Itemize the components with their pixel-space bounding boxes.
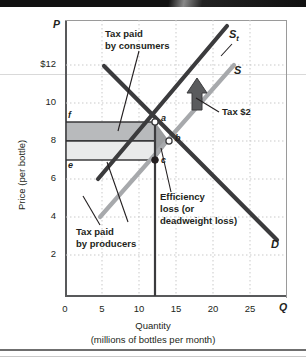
x-tick-25: 25 — [236, 303, 264, 314]
annotation-efficiency-loss-line1: Efficiency — [160, 191, 237, 203]
plot-frame-right — [286, 20, 287, 298]
y-axis-title: Price (per bottle) — [16, 140, 27, 210]
x-axis-title: Quantity — [0, 320, 306, 331]
curve-label-st-subscript: t — [236, 34, 239, 43]
point-label-c: c — [161, 155, 166, 165]
y-tick-4: 4 — [22, 210, 56, 221]
point-label-b: b — [175, 133, 181, 143]
annotation-efficiency-loss-line2: loss (or — [160, 203, 237, 215]
axis-marker-f: f — [68, 110, 71, 120]
axis-marker-e: e — [68, 160, 73, 170]
y-tick-12: $12 — [22, 58, 56, 69]
annotation-efficiency-loss-line3: deadweight loss) — [160, 215, 237, 227]
x-axis-subtitle: (millions of bottles per month) — [0, 334, 306, 345]
curve-label-demand: D — [271, 238, 279, 250]
page-bottom-rule-secondary — [0, 356, 306, 357]
x-tick-10: 10 — [125, 303, 153, 314]
annotation-tax-paid-by-consumers: Tax paid by consumers — [105, 28, 169, 52]
plot-area — [65, 20, 287, 297]
annotation-tax-producers-line2: by producers — [76, 238, 136, 250]
chart-figure: $12 10 8 6 4 2 0 5 10 15 20 25 P Q Price… — [0, 0, 306, 361]
x-tick-20: 20 — [199, 303, 227, 314]
annotation-tax-consumers-line2: by consumers — [105, 40, 169, 52]
plot-frame-top — [65, 20, 287, 21]
annotation-tax-consumers-line1: Tax paid — [105, 28, 169, 40]
point-label-a: a — [161, 113, 166, 123]
y-tick-6: 6 — [22, 172, 56, 183]
annotation-tax-amount: Tax $2 — [222, 106, 251, 118]
curve-label-supply-original: S — [234, 64, 241, 76]
page-top-edge-highlight — [0, 0, 306, 7]
x-tick-5: 5 — [88, 303, 116, 314]
annotation-tax-paid-by-producers: Tax paid by producers — [76, 226, 136, 250]
y-tick-2: 2 — [22, 248, 56, 259]
y-tick-8: 8 — [22, 134, 56, 145]
x-tick-15: 15 — [162, 303, 190, 314]
curve-label-supply-taxed: St — [229, 28, 239, 43]
y-axis-symbol: P — [53, 18, 60, 30]
y-tick-10: 10 — [22, 96, 56, 107]
annotation-efficiency-loss: Efficiency loss (or deadweight loss) — [160, 191, 237, 227]
annotation-tax-producers-line1: Tax paid — [76, 226, 136, 238]
x-axis-symbol: Q — [279, 301, 287, 313]
page-bottom-rule — [0, 349, 306, 351]
x-tick-0: 0 — [51, 303, 79, 314]
